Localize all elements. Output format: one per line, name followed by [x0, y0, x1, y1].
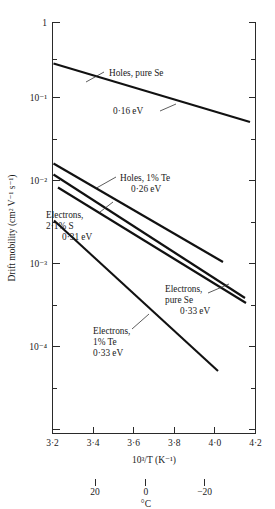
- annot-holes-pure-se: Holes, pure Se: [109, 68, 163, 78]
- y-tick-label-1: 10⁻¹: [30, 93, 48, 103]
- annot-electrons-pure-se-line0: Electrons,: [165, 284, 202, 294]
- annot-holes-pure-se-energy: 0·16 eV: [113, 106, 143, 116]
- y-axis-tick-labels: 1 10⁻¹ 10⁻² 10⁻³ 10⁻⁴: [29, 18, 48, 352]
- x-tick-label-0: 3·2: [46, 438, 59, 448]
- figure-container: 1 10⁻¹ 10⁻² 10⁻³ 10⁻⁴ Drift mobility (cm…: [0, 0, 275, 509]
- plot-frame: [53, 22, 256, 434]
- annot-electrons-1pc-te-line1: 1% Te: [93, 337, 117, 347]
- y-tick-label-2: 10⁻²: [30, 176, 48, 186]
- leader-holes-pure-se-energy: [160, 104, 176, 111]
- annot-holes-1pc-te-line0: Holes, 1% Te: [120, 173, 170, 183]
- x-axis-tick-labels: 3·2 3·4 3·6 3·8 4·0 4·2: [46, 438, 262, 448]
- curve-electrons-1pc-te: [54, 221, 218, 372]
- annot-electrons-1pc-te-line0: Electrons,: [93, 326, 130, 336]
- x-axis-ticks: [53, 427, 256, 434]
- drift-mobility-chart: 1 10⁻¹ 10⁻² 10⁻³ 10⁻⁴ Drift mobility (cm…: [0, 0, 275, 509]
- y-tick-label-0: 1: [42, 18, 47, 28]
- x-tick-label-4: 4·0: [209, 438, 222, 448]
- leader-electrons-1pc-te: [132, 314, 149, 329]
- x-tick-label-3: 3·8: [168, 438, 181, 448]
- x-axis-title: 10³/T (K⁻¹): [132, 455, 176, 466]
- leader-holes-1pc-te: [97, 177, 117, 188]
- curve-electrons-pure-se: [58, 188, 246, 304]
- celsius-label-2: −20: [197, 487, 212, 497]
- annotation-leaders: [86, 72, 229, 329]
- right-axis-ticks: [249, 23, 256, 430]
- annot-electrons-2-1pc-s-line1: 2·1% S: [46, 221, 74, 231]
- y-tick-label-3: 10⁻³: [30, 259, 48, 269]
- annotation-labels: Holes, pure Se 0·16 eV Holes, 1% Te 0·26…: [46, 68, 210, 358]
- celsius-label-0: 20: [90, 487, 100, 497]
- annot-electrons-1pc-te-line2: 0·33 eV: [93, 348, 123, 358]
- y-tick-label-4: 10⁻⁴: [29, 342, 48, 352]
- x-tick-label-5: 4·2: [249, 438, 262, 448]
- annot-electrons-pure-se-line2: 0·33 eV: [180, 306, 210, 316]
- annot-electrons-2-1pc-s-line2: 0·31 eV: [62, 232, 92, 242]
- x-tick-label-1: 3·4: [87, 438, 100, 448]
- x-tick-label-2: 3·6: [127, 438, 140, 448]
- annot-electrons-pure-se-line1: pure Se: [165, 295, 193, 305]
- caption-strip: [0, 497, 275, 509]
- annot-holes-1pc-te-line1: 0·26 eV: [131, 184, 161, 194]
- annot-electrons-2-1pc-s-line0: Electrons,: [46, 210, 83, 220]
- y-axis-title: Drift mobility (cm² V⁻¹ s⁻¹): [7, 174, 18, 281]
- celsius-label-1: 0: [144, 487, 149, 497]
